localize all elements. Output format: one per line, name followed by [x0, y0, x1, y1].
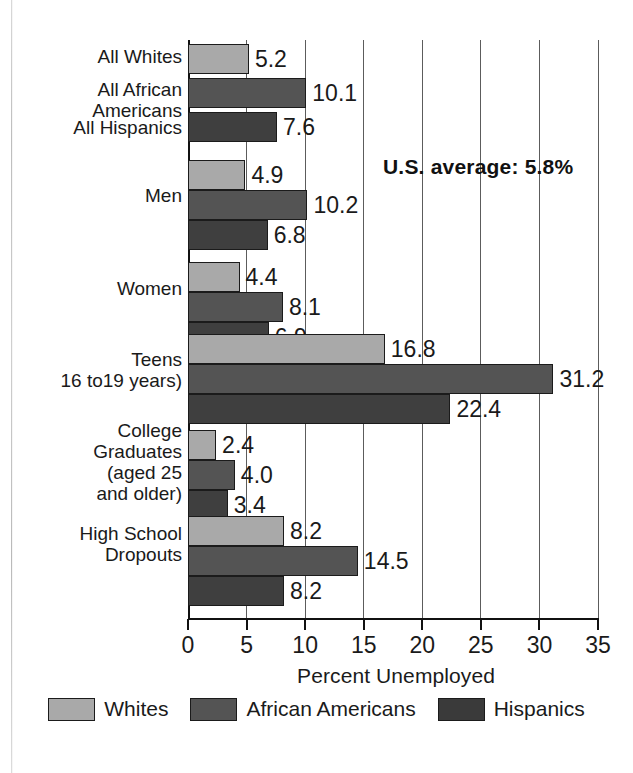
us-average-annotation: U.S. average: 5.8% [383, 155, 573, 179]
legend-item[interactable]: Hispanics [438, 697, 585, 721]
bar [188, 430, 216, 460]
category-label: Men [0, 185, 182, 206]
category-label: College Graduates (aged 25 and older) [0, 420, 182, 504]
bar-value-label: 2.4 [222, 434, 254, 457]
bar [188, 546, 358, 576]
x-tick-25 [480, 619, 482, 630]
category-label: Women [0, 278, 182, 299]
gridline-15 [363, 40, 364, 618]
x-tick-0 [187, 619, 189, 630]
legend-swatch-icon [48, 698, 95, 721]
x-tick-5 [246, 619, 248, 630]
gridline-25 [480, 40, 481, 618]
bar [188, 262, 240, 292]
x-tick-label-35: 35 [568, 632, 628, 658]
x-tick-label-0: 0 [158, 632, 218, 658]
unemployment-bar-chart: 05101520253035 5.210.17.64.910.26.84.48.… [0, 0, 633, 773]
x-tick-15 [363, 619, 365, 630]
bar-value-label: 8.2 [290, 520, 322, 543]
bar [188, 364, 553, 394]
category-label: All Hispanics [0, 117, 182, 138]
bar-value-label: 31.2 [559, 368, 604, 391]
bar [188, 516, 284, 546]
bar [188, 334, 385, 364]
bar-value-label: 14.5 [364, 550, 409, 573]
legend-item[interactable]: Whites [48, 697, 168, 721]
bar-value-label: 6.8 [274, 224, 306, 247]
x-tick-20 [421, 619, 423, 630]
bar [188, 460, 235, 490]
x-tick-10 [304, 619, 306, 630]
category-label: Teens 16 to19 years) [0, 349, 182, 391]
category-label: All African Americans [0, 79, 182, 121]
gridline-30 [539, 40, 540, 618]
x-axis-title: Percent Unemployed [0, 664, 633, 688]
bar-value-label: 7.6 [283, 116, 315, 139]
legend-label: Hispanics [494, 697, 585, 721]
x-tick-label-25: 25 [451, 632, 511, 658]
bar-value-label: 16.8 [391, 338, 436, 361]
x-axis-title-text: Percent Unemployed [297, 664, 495, 688]
bar-value-label: 4.9 [251, 164, 283, 187]
x-tick-label-15: 15 [334, 632, 394, 658]
bar-value-label: 5.2 [255, 48, 287, 71]
bar-value-label: 10.2 [313, 194, 358, 217]
category-label: All Whites [0, 46, 182, 67]
category-label: High School Dropouts [0, 523, 182, 565]
legend-swatch-icon [438, 698, 485, 721]
x-axis-line [188, 618, 599, 620]
bar [188, 160, 245, 190]
x-tick-label-30: 30 [509, 632, 569, 658]
legend-swatch-icon [190, 698, 237, 721]
gridline-20 [422, 40, 423, 618]
x-tick-label-10: 10 [275, 632, 335, 658]
x-tick-30 [538, 619, 540, 630]
gridline-35 [598, 40, 599, 618]
x-tick-label-5: 5 [217, 632, 277, 658]
legend-item[interactable]: African Americans [190, 697, 415, 721]
bar-value-label: 4.4 [246, 266, 278, 289]
x-tick-label-20: 20 [392, 632, 452, 658]
bar [188, 190, 307, 220]
bar-value-label: 8.1 [289, 296, 321, 319]
bar-value-label: 22.4 [456, 398, 501, 421]
bar [188, 78, 306, 108]
legend-label: Whites [104, 697, 168, 721]
bar-value-label: 10.1 [312, 82, 357, 105]
x-tick-35 [597, 619, 599, 630]
bar-value-label: 3.4 [234, 494, 266, 517]
legend: WhitesAfrican AmericansHispanics [0, 697, 633, 721]
legend-label: African Americans [246, 697, 415, 721]
bar [188, 576, 284, 606]
bar-value-label: 4.0 [241, 464, 273, 487]
bar [188, 44, 249, 74]
bar [188, 112, 277, 142]
bar [188, 292, 283, 322]
bar-value-label: 8.2 [290, 580, 322, 603]
bar [188, 394, 450, 424]
bar [188, 220, 268, 250]
